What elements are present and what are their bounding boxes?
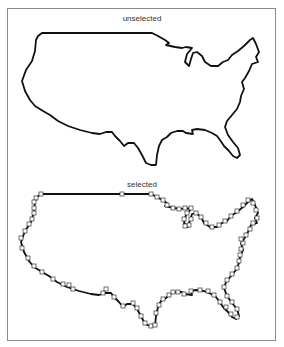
map-unselected[interactable] <box>22 33 259 165</box>
map-selected[interactable] <box>19 192 259 328</box>
map-canvas <box>0 0 284 347</box>
